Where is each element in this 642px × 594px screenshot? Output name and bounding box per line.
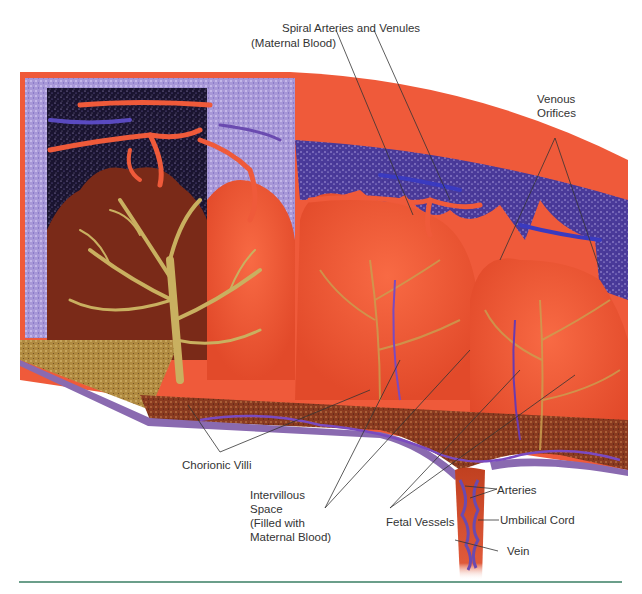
label-intervillous: Intervillous bbox=[250, 488, 305, 502]
placenta-diagram: Spiral Arteries and Venules (Maternal Bl… bbox=[0, 0, 642, 594]
label-filled-with: (Filled with bbox=[250, 516, 305, 530]
label-maternal-blood-2: Maternal Blood) bbox=[250, 530, 331, 544]
label-arteries: Arteries bbox=[497, 483, 537, 497]
label-vein: Vein bbox=[507, 544, 529, 558]
label-chorionic-villi: Chorionic Villi bbox=[182, 458, 251, 472]
label-fetal-vessels: Fetal Vessels bbox=[386, 515, 454, 529]
placenta-illustration bbox=[0, 0, 642, 594]
label-spiral-arteries: Spiral Arteries and Venules bbox=[282, 21, 420, 35]
label-venous: Venous bbox=[537, 92, 575, 106]
label-maternal-blood: (Maternal Blood) bbox=[251, 36, 336, 50]
bottom-rule bbox=[19, 581, 622, 583]
label-orifices: Orifices bbox=[537, 106, 576, 120]
label-umbilical-cord: Umbilical Cord bbox=[500, 513, 575, 527]
label-space: Space bbox=[250, 502, 283, 516]
